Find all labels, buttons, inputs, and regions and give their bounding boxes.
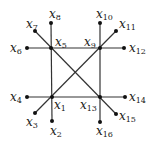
- label-variable: x: [26, 115, 33, 129]
- label-x10: x10: [96, 8, 113, 22]
- label-variable: x: [54, 98, 61, 112]
- label-variable: x: [96, 124, 103, 138]
- label-x3: x3: [26, 116, 38, 130]
- label-x2: x2: [50, 125, 62, 139]
- label-subscript: 3: [33, 121, 38, 130]
- label-variable: x: [129, 90, 136, 104]
- label-variable: x: [49, 7, 56, 21]
- label-x8: x8: [49, 8, 61, 22]
- label-variable: x: [10, 41, 17, 55]
- label-subscript: 12: [136, 47, 146, 56]
- label-subscript: 11: [126, 23, 136, 32]
- label-variable: x: [84, 35, 91, 49]
- label-x13: x13: [80, 99, 97, 113]
- node-x4: [25, 95, 29, 99]
- label-x11: x11: [119, 18, 136, 32]
- node-x2: [50, 119, 54, 123]
- label-x15: x15: [119, 110, 136, 124]
- label-subscript: 9: [91, 41, 96, 50]
- label-variable: x: [26, 17, 33, 31]
- label-variable: x: [55, 35, 62, 49]
- node-x9: [98, 46, 102, 50]
- node-x3: [33, 111, 37, 115]
- label-subscript: 6: [17, 47, 22, 56]
- label-subscript: 7: [33, 23, 38, 32]
- label-subscript: 16: [103, 130, 113, 139]
- label-x1: x1: [54, 99, 66, 113]
- node-x5: [49, 46, 53, 50]
- label-subscript: 14: [136, 96, 146, 105]
- label-x4: x4: [10, 91, 22, 105]
- label-x9: x9: [84, 36, 96, 50]
- node-x13: [98, 95, 102, 99]
- label-subscript: 15: [126, 115, 136, 124]
- node-x12: [122, 46, 126, 50]
- label-variable: x: [129, 41, 136, 55]
- label-variable: x: [50, 124, 57, 138]
- label-x16: x16: [96, 125, 113, 139]
- label-subscript: 8: [56, 13, 61, 22]
- label-variable: x: [80, 98, 87, 112]
- label-x5: x5: [55, 36, 67, 50]
- label-x12: x12: [129, 42, 146, 56]
- label-subscript: 1: [61, 104, 66, 113]
- label-x6: x6: [10, 42, 22, 56]
- label-variable: x: [119, 17, 126, 31]
- label-subscript: 5: [62, 41, 67, 50]
- label-variable: x: [10, 90, 17, 104]
- label-variable: x: [119, 109, 126, 123]
- graph-diagram: x1x2x3x4x5x6x7x8x9x10x11x12x13x14x15x16: [0, 0, 155, 143]
- node-x11: [114, 29, 118, 33]
- node-x14: [123, 95, 127, 99]
- label-subscript: 4: [17, 96, 22, 105]
- label-subscript: 2: [57, 130, 62, 139]
- node-x6: [25, 46, 29, 50]
- label-x14: x14: [129, 91, 146, 105]
- label-x7: x7: [26, 18, 38, 32]
- label-subscript: 10: [103, 13, 113, 22]
- label-variable: x: [96, 7, 103, 21]
- label-subscript: 13: [87, 104, 97, 113]
- edge-x8-x2: [51, 23, 52, 121]
- node-x15: [114, 112, 118, 116]
